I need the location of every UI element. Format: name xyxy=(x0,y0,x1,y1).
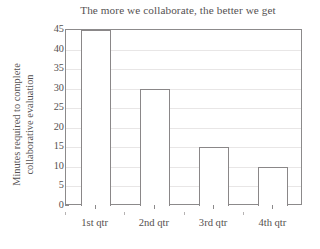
x-tick-minor-mark xyxy=(124,212,125,215)
x-tick-minor-mark xyxy=(243,212,244,215)
x-tick-label: 1st qtr xyxy=(63,216,127,229)
x-tick-label: 4th qtr xyxy=(240,216,304,229)
bar[interactable] xyxy=(258,167,288,206)
bar[interactable] xyxy=(199,147,229,206)
bar[interactable] xyxy=(140,89,170,206)
x-tick-mark xyxy=(272,205,273,209)
x-tick-label: 2nd qtr xyxy=(122,216,186,229)
y-tick-label: 30 xyxy=(38,83,64,93)
x-tick-mark xyxy=(154,205,155,209)
bar[interactable] xyxy=(81,30,111,206)
chart-title: The more we collaborate, the better we g… xyxy=(52,3,304,17)
x-tick-minor-mark xyxy=(65,212,66,215)
plot-area xyxy=(65,29,302,205)
y-tick-label: 35 xyxy=(38,63,64,73)
x-tick-mark xyxy=(213,205,214,209)
y-tick-label: 25 xyxy=(38,102,64,112)
y-axis-title-line-2: collaborative evaluation xyxy=(23,25,36,225)
y-tick-mark xyxy=(65,205,69,206)
y-tick-label: 5 xyxy=(38,180,64,190)
y-tick-label: 20 xyxy=(38,122,64,132)
x-tick-minor-mark xyxy=(184,212,185,215)
x-tick-label: 3rd qtr xyxy=(181,216,245,229)
y-tick-label: 15 xyxy=(38,141,64,151)
bar-chart: The more we collaborate, the better we g… xyxy=(0,0,320,249)
y-tick-label: 10 xyxy=(38,161,64,171)
y-tick-label: 0 xyxy=(38,200,64,210)
x-tick-mark xyxy=(95,205,96,209)
y-tick-label: 40 xyxy=(38,44,64,54)
y-axis-title-line-1: Minutes required to complete xyxy=(11,25,24,225)
y-axis-title: Minutes required to complete collaborati… xyxy=(11,25,36,225)
y-tick-label: 45 xyxy=(38,24,64,34)
